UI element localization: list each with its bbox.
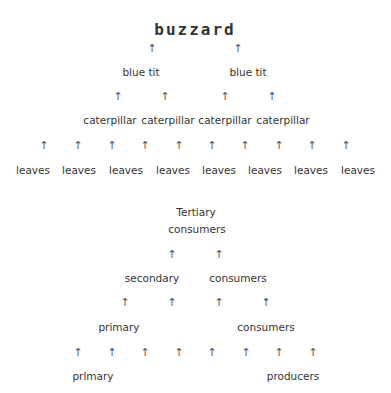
arrow-up-icon: ↑ [207, 140, 216, 151]
arrow-up-icon: ↑ [261, 297, 270, 308]
arrow-up-icon: ↑ [107, 140, 116, 151]
arrow-up-icon: ↑ [167, 249, 176, 260]
arrow-up-icon: ↑ [174, 140, 183, 151]
arrow-up-icon: ↑ [174, 347, 183, 358]
leaves-label: leaves [16, 164, 50, 176]
arrow-up-icon: ↑ [240, 140, 249, 151]
arrow-up-icon: ↑ [307, 140, 316, 151]
secondary-consumers-label: consumers [209, 272, 266, 284]
arrow-up-icon: ↑ [120, 297, 129, 308]
leaves-label: leaves [109, 164, 143, 176]
arrow-up-icon: ↑ [73, 140, 82, 151]
leaves-label: leaves [294, 164, 328, 176]
leaves-label: leaves [62, 164, 96, 176]
leaves-label: leaves [156, 164, 190, 176]
arrow-up-icon: ↑ [274, 140, 283, 151]
secondary-label: secondary [125, 272, 179, 284]
producers-primary-label: prlmary [72, 370, 113, 382]
arrow-up-icon: ↑ [107, 347, 116, 358]
arrow-up-icon: ↑ [39, 140, 48, 151]
arrow-up-icon: ↑ [341, 140, 350, 151]
arrow-up-icon: ↑ [233, 43, 242, 54]
arrow-up-icon: ↑ [267, 91, 276, 102]
arrow-up-icon: ↑ [140, 140, 149, 151]
arrow-up-icon: ↑ [220, 91, 229, 102]
tertiary-consumers-label: consumers [168, 223, 225, 235]
producers-label: producers [267, 370, 320, 382]
leaves-label: leaves [341, 164, 375, 176]
arrow-up-icon: ↑ [73, 347, 82, 358]
arrow-up-icon: ↑ [160, 91, 169, 102]
tertiary-label: Tertiary [176, 206, 215, 218]
arrow-up-icon: ↑ [207, 347, 216, 358]
arrow-up-icon: ↑ [214, 249, 223, 260]
arrow-up-icon: ↑ [274, 347, 283, 358]
arrow-up-icon: ↑ [167, 297, 176, 308]
blue-tit-label: blue tit [229, 66, 266, 78]
caterpillar-label: caterpillar [198, 114, 251, 126]
arrow-up-icon: ↑ [214, 297, 223, 308]
arrow-up-icon: ↑ [140, 347, 149, 358]
leaves-label: leaves [248, 164, 282, 176]
blue-tit-label: blue tit [122, 66, 159, 78]
caterpillar-label: caterpillar [141, 114, 194, 126]
arrow-up-icon: ↑ [308, 347, 317, 358]
caterpillar-label: caterpillar [83, 114, 136, 126]
primary-consumers-label: consumers [237, 321, 294, 333]
arrow-up-icon: ↑ [113, 91, 122, 102]
primary-label: primary [98, 321, 139, 333]
leaves-label: leaves [202, 164, 236, 176]
caterpillar-label: caterpillar [256, 114, 309, 126]
arrow-up-icon: ↑ [147, 43, 156, 54]
buzzard-label: buzzard [154, 20, 235, 39]
arrow-up-icon: ↑ [241, 347, 250, 358]
